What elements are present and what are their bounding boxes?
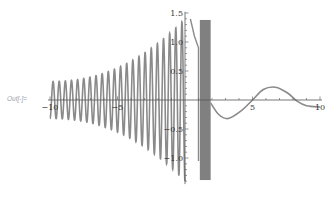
y-tick-label: −0.5 xyxy=(164,125,183,134)
y-tick-label: 0.5 xyxy=(170,67,183,76)
y-tick-label: −1.0 xyxy=(164,154,183,163)
plot: −10−55101.51.00.5−0.5−1.0 xyxy=(0,0,331,197)
x-tick-label: −5 xyxy=(112,103,124,112)
damped-wave-curve xyxy=(211,87,320,119)
decay-branch-curve xyxy=(190,19,198,161)
y-tick-label: 1.0 xyxy=(170,38,183,47)
x-tick-label: 10 xyxy=(315,103,325,112)
x-tick-label: 5 xyxy=(250,103,255,112)
y-tick-label: 1.5 xyxy=(170,9,183,18)
x-tick-label: −10 xyxy=(42,103,59,112)
